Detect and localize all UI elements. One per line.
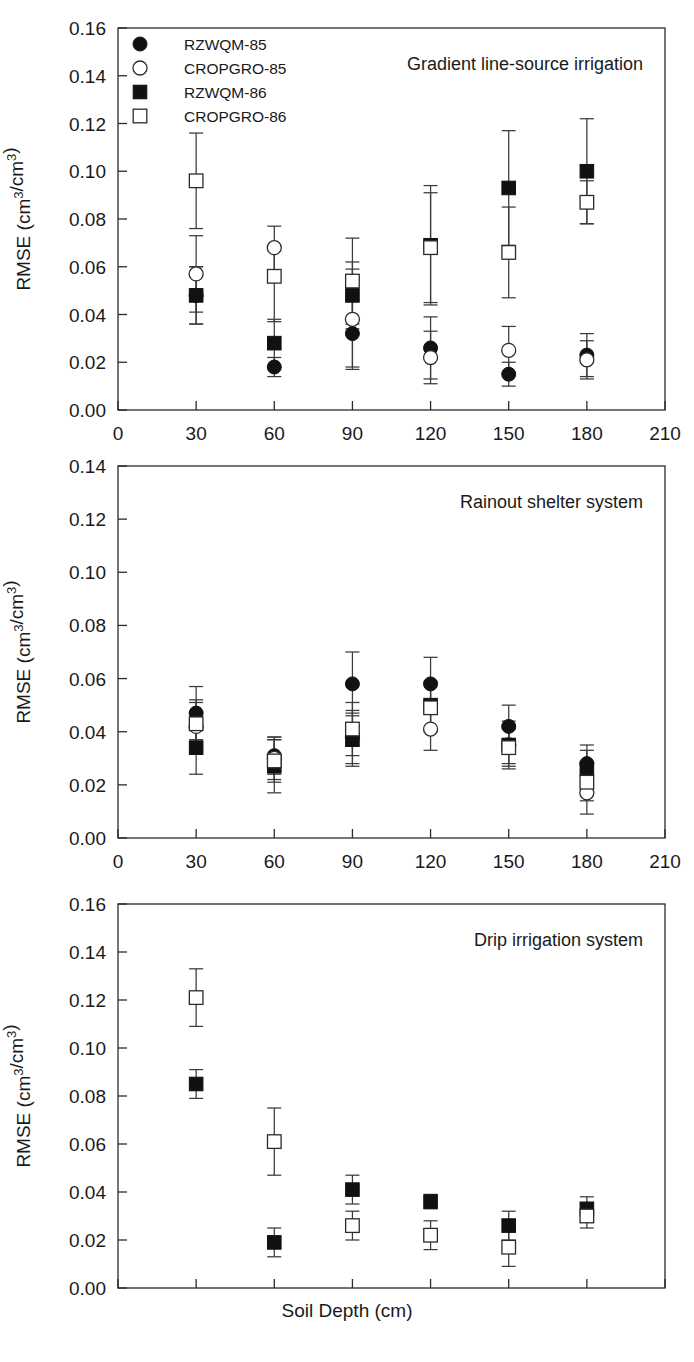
y-axis-title-text: RMSE (cm3/cm3) bbox=[0, 580, 34, 723]
data-point bbox=[424, 350, 438, 364]
x-tick-label: 90 bbox=[342, 423, 363, 440]
cropgro-86-marker bbox=[189, 991, 203, 1005]
y-tick-label: 0.08 bbox=[69, 1086, 106, 1107]
data-point bbox=[345, 312, 359, 326]
cropgro-86-marker bbox=[502, 741, 516, 755]
data-point bbox=[346, 274, 360, 288]
data-point bbox=[580, 775, 594, 789]
x-tick-label: 30 bbox=[186, 851, 207, 872]
data-point bbox=[267, 1135, 281, 1149]
data-point bbox=[189, 741, 203, 755]
y-tick-label: 0.12 bbox=[69, 990, 106, 1011]
data-point bbox=[580, 1209, 594, 1223]
rzwqm-85-marker bbox=[424, 677, 438, 691]
x-tick-label: 150 bbox=[493, 423, 525, 440]
data-point bbox=[346, 722, 360, 736]
legend-label: RZWQM-86 bbox=[184, 84, 267, 101]
plot-frame bbox=[118, 904, 665, 1288]
y-axis-title: RMSE (cm3/cm3) bbox=[0, 1024, 34, 1167]
x-axis-title: Soil Depth (cm) bbox=[0, 1300, 694, 1322]
data-point bbox=[346, 1219, 360, 1233]
cropgro-85-marker bbox=[189, 267, 203, 281]
cropgro-85-marker bbox=[424, 350, 438, 364]
rzwqm-85-marker bbox=[267, 360, 281, 374]
legend-item: RZWQM-86 bbox=[133, 84, 266, 101]
rzwqm-85-marker bbox=[133, 37, 147, 51]
rzwqm-86-marker bbox=[424, 1195, 438, 1209]
cropgro-85-marker bbox=[580, 353, 594, 367]
cropgro-86-marker bbox=[189, 717, 203, 731]
data-point bbox=[424, 701, 438, 715]
cropgro-86-marker bbox=[424, 241, 438, 255]
data-point bbox=[502, 367, 516, 381]
cropgro-86-marker bbox=[424, 701, 438, 715]
data-point bbox=[189, 289, 203, 303]
data-point bbox=[267, 241, 281, 255]
legend-item: RZWQM-85 bbox=[133, 36, 267, 53]
cropgro-86-marker bbox=[502, 1240, 516, 1254]
data-point bbox=[346, 1183, 360, 1197]
y-tick-label: 0.12 bbox=[69, 114, 106, 135]
y-tick-label: 0.04 bbox=[69, 1182, 106, 1203]
y-tick-label: 0.14 bbox=[69, 942, 106, 963]
y-tick-label: 0.02 bbox=[69, 352, 106, 373]
rzwqm-86-marker bbox=[189, 289, 203, 303]
rzwqm-86-marker bbox=[580, 164, 594, 178]
data-point bbox=[267, 360, 281, 374]
data-point bbox=[189, 267, 203, 281]
cropgro-86-marker bbox=[346, 1219, 360, 1233]
x-tick-label: 180 bbox=[571, 851, 603, 872]
chart-panel-gradient-line-source: 0.000.020.040.060.080.100.120.140.160306… bbox=[0, 0, 694, 440]
cropgro-86-marker bbox=[133, 109, 147, 123]
x-tick-label: 180 bbox=[571, 423, 603, 440]
rzwqm-86-marker bbox=[189, 1077, 203, 1091]
cropgro-86-marker bbox=[346, 274, 360, 288]
cropgro-86-marker bbox=[189, 174, 203, 188]
cropgro-86-marker bbox=[267, 754, 281, 768]
x-tick-label: 60 bbox=[264, 423, 285, 440]
cropgro-85-marker bbox=[502, 343, 516, 357]
y-tick-label: 0.16 bbox=[69, 18, 106, 39]
cropgro-86-marker bbox=[502, 246, 516, 260]
data-point bbox=[502, 1240, 516, 1254]
y-tick-label: 0.10 bbox=[69, 161, 106, 182]
data-point bbox=[267, 336, 281, 350]
y-tick-label: 0.14 bbox=[69, 456, 106, 477]
rzwqm-85-marker bbox=[502, 719, 516, 733]
x-tick-label: 210 bbox=[649, 423, 681, 440]
legend-label: CROPGRO-85 bbox=[184, 60, 287, 77]
figure-root: 0.000.020.040.060.080.100.120.140.160306… bbox=[0, 0, 694, 1362]
cropgro-85-marker bbox=[133, 61, 147, 75]
y-axis-title: RMSE (cm3/cm3) bbox=[0, 580, 34, 723]
y-tick-label: 0.02 bbox=[69, 1230, 106, 1251]
legend-label: CROPGRO-86 bbox=[184, 108, 287, 125]
y-tick-label: 0.06 bbox=[69, 257, 106, 278]
y-tick-label: 0.10 bbox=[69, 1038, 106, 1059]
chart-plot-area: 0.000.020.040.060.080.100.120.1403060901… bbox=[0, 440, 694, 878]
data-point bbox=[345, 327, 359, 341]
legend-item: CROPGRO-86 bbox=[133, 108, 286, 125]
data-point bbox=[502, 741, 516, 755]
data-point bbox=[502, 181, 516, 195]
cropgro-86-marker bbox=[346, 722, 360, 736]
data-point bbox=[345, 677, 359, 691]
rzwqm-85-marker bbox=[345, 677, 359, 691]
rzwqm-86-marker bbox=[580, 762, 594, 776]
rzwqm-85-marker bbox=[345, 327, 359, 341]
y-tick-label: 0.02 bbox=[69, 775, 106, 796]
chart-plot-area: 0.000.020.040.060.080.100.120.140.160306… bbox=[0, 878, 694, 1302]
rzwqm-86-marker bbox=[267, 1236, 281, 1250]
y-tick-label: 0.00 bbox=[69, 1278, 106, 1299]
x-tick-label: 150 bbox=[493, 851, 525, 872]
data-point bbox=[424, 722, 438, 736]
cropgro-85-marker bbox=[267, 241, 281, 255]
y-tick-label: 0.08 bbox=[69, 209, 106, 230]
chart-panel-drip-irrigation: 0.000.020.040.060.080.100.120.140.160306… bbox=[0, 878, 694, 1302]
panel-title: Gradient line-source irrigation bbox=[407, 54, 643, 74]
data-point bbox=[189, 717, 203, 731]
x-tick-label: 120 bbox=[415, 851, 447, 872]
cropgro-85-marker bbox=[345, 312, 359, 326]
data-point bbox=[267, 1236, 281, 1250]
chart-panel-rainout-shelter: 0.000.020.040.060.080.100.120.1403060901… bbox=[0, 440, 694, 878]
y-tick-label: 0.10 bbox=[69, 562, 106, 583]
